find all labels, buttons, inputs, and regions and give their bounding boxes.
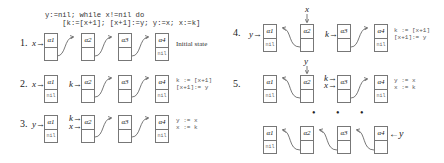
node-nil: nil (156, 130, 168, 143)
step-1-number: 1. (20, 37, 28, 48)
step-3-node-a1: α1nil (44, 115, 58, 143)
step-4-node-a4: α4nil (374, 24, 388, 52)
node-next (338, 90, 350, 103)
step-2-node-a1: α1nil (44, 75, 58, 103)
node-nil: nil (156, 48, 168, 61)
node-value: α4 (375, 25, 387, 39)
node-next (119, 90, 131, 103)
node-nil: nil (156, 90, 168, 103)
final-y-pointer: ←y (389, 129, 403, 138)
node-nil: nil (375, 39, 387, 52)
step-5-node-a2: α2 (300, 75, 314, 103)
node-value: α3 (338, 127, 350, 141)
node-next (338, 39, 350, 52)
step-5-node-a4: α4nil (374, 75, 388, 103)
ellipsis: • • • (312, 107, 373, 118)
step-3-number: 3. (20, 118, 28, 129)
node-value: α1 (45, 116, 57, 130)
step-3-note: y := x x := k (176, 117, 198, 131)
step-5-node-a3: α3 (337, 75, 351, 103)
node-value: α2 (82, 34, 94, 48)
node-next (301, 90, 313, 103)
node-value: α3 (119, 34, 131, 48)
step-4-node-a1: α1nil (263, 24, 277, 52)
node-value: α2 (301, 25, 313, 39)
step-5-node-a1: α1nil (263, 75, 277, 103)
step-1-node-a3: α3 (118, 33, 132, 61)
step-4-note: k := [x+1] [x+1]:= y (394, 27, 430, 41)
step-4-node-a3: α3 (337, 24, 351, 52)
node-value: α1 (264, 25, 276, 39)
node-next (82, 130, 94, 143)
node-value: α3 (119, 76, 131, 90)
node-value: α3 (119, 116, 131, 130)
node-value: α1 (45, 76, 57, 90)
step-4-number: 4. (233, 27, 241, 38)
step-4-x-pointer: x (305, 5, 309, 14)
step-3-node-a3: α3 (118, 115, 132, 143)
node-value: α4 (156, 76, 168, 90)
step-1-caption: Initial state (176, 40, 207, 48)
step-1-node-a4: α4nil (155, 33, 169, 61)
step-2-node-a4: α4nil (155, 75, 169, 103)
step-2-note: k := [x+1] [x+1]:= y (176, 77, 212, 91)
final-node-a4: α4 (374, 126, 388, 154)
node-nil: nil (375, 90, 387, 103)
node-nil: nil (264, 39, 276, 52)
step-3-node-a2: α2 (81, 115, 95, 143)
node-nil: nil (264, 141, 276, 154)
step-3-node-a4: α4nil (155, 115, 169, 143)
node-next (82, 48, 94, 61)
step-1-node-a2: α2 (81, 33, 95, 61)
node-value: α1 (264, 76, 276, 90)
node-value: α2 (82, 116, 94, 130)
node-value: α1 (264, 127, 276, 141)
node-next (301, 141, 313, 154)
step-4-node-a2: α2 (300, 24, 314, 52)
node-value: α4 (156, 34, 168, 48)
node-value: α2 (301, 76, 313, 90)
node-next (119, 48, 131, 61)
node-nil: nil (45, 90, 57, 103)
step-5-number: 5. (233, 78, 241, 89)
node-nil: nil (45, 130, 57, 143)
step-2-node-a3: α3 (118, 75, 132, 103)
node-next (301, 39, 313, 52)
node-value: α1 (45, 34, 57, 48)
step-1-node-a1: α1 (44, 33, 58, 61)
node-next (82, 90, 94, 103)
node-next (338, 141, 350, 154)
final-node-a3: α3 (337, 126, 351, 154)
node-value: α2 (82, 76, 94, 90)
node-next (45, 48, 57, 61)
node-next (375, 141, 387, 154)
node-value: α4 (156, 116, 168, 130)
node-value: α3 (338, 25, 350, 39)
node-value: α3 (338, 76, 350, 90)
final-node-a1: α1nil (263, 126, 277, 154)
final-node-a2: α2 (300, 126, 314, 154)
node-value: α4 (375, 127, 387, 141)
step-4-y-pointer: y→ (249, 30, 262, 39)
node-next (119, 130, 131, 143)
step-5-note: y := x x := k (394, 77, 416, 91)
step-5-x-pointer: x→ (324, 81, 337, 90)
step-5-y-pointer: y (304, 57, 308, 66)
node-value: α2 (301, 127, 313, 141)
step-2-node-a2: α2 (81, 75, 95, 103)
node-nil: nil (264, 90, 276, 103)
step-2-number: 2. (20, 78, 28, 89)
node-value: α4 (375, 76, 387, 90)
